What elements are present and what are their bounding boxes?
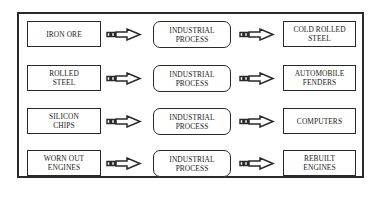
arrow-right-icon (106, 115, 142, 128)
arrow-right-icon (106, 72, 142, 85)
arrow-right-icon (239, 157, 275, 170)
process-box: INDUSTRIAL PROCESS (153, 150, 231, 177)
output-box: COLD ROLLED STEEL (283, 21, 356, 47)
output-box: REBUILT ENGINES (283, 150, 356, 176)
arrow-right-icon (239, 72, 275, 85)
arrow-right-icon (106, 157, 142, 170)
arrow-right-icon (106, 28, 142, 41)
flow-row-iron-ore: IRON ORE INDUSTRIAL PROCESS COLD ROLLED … (0, 21, 387, 47)
output-box: COMPUTERS (283, 108, 356, 134)
flow-row-rolled-steel: ROLLED STEEL INDUSTRIAL PROCESS AUTOMOBI… (0, 65, 387, 91)
flow-row-silicon-chips: SILICON CHIPS INDUSTRIAL PROCESS COMPUTE… (0, 108, 387, 134)
arrow-right-icon (239, 28, 275, 41)
process-box: INDUSTRIAL PROCESS (153, 108, 231, 135)
flow-row-worn-out-engines: WORN OUT ENGINES INDUSTRIAL PROCESS REBU… (0, 150, 387, 176)
process-box: INDUSTRIAL PROCESS (153, 65, 231, 92)
input-box: WORN OUT ENGINES (27, 150, 101, 176)
input-box: IRON ORE (27, 21, 101, 47)
input-box: ROLLED STEEL (27, 65, 101, 91)
arrow-right-icon (239, 115, 275, 128)
input-box: SILICON CHIPS (27, 108, 101, 134)
output-box: AUTOMOBILE FENDERS (283, 65, 356, 91)
process-box: INDUSTRIAL PROCESS (153, 21, 231, 48)
